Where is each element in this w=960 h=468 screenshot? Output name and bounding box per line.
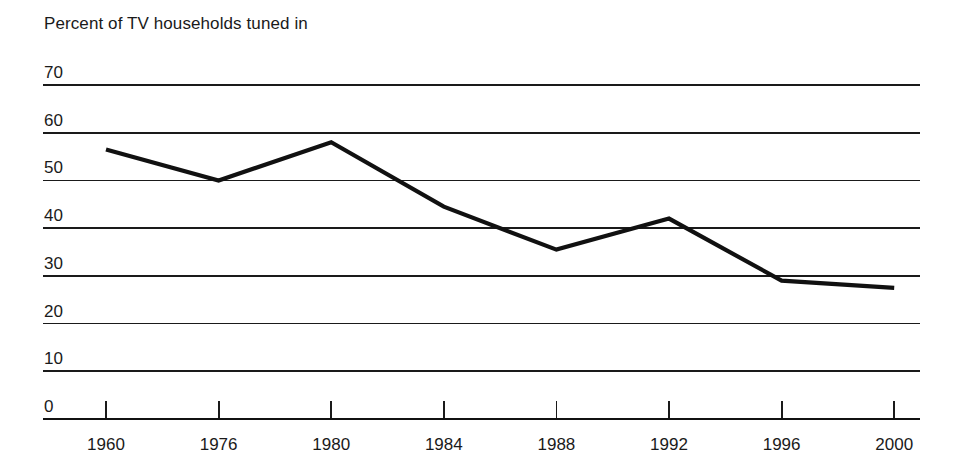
x-axis-label-1984: 1984 [425,435,463,455]
x-axis-label-1976: 1976 [200,435,238,455]
y-axis-label-30: 30 [44,254,63,274]
x-axis-tick-marks [106,401,894,419]
y-axis-label-0: 0 [44,397,53,417]
y-axis-label-20: 20 [44,302,63,322]
gridlines-group [43,85,920,371]
y-axis-label-50: 50 [44,158,63,178]
x-axis-label-1980: 1980 [312,435,350,455]
y-axis-label-70: 70 [44,63,63,83]
y-axis-label-60: 60 [44,111,63,131]
x-axis-label-1992: 1992 [650,435,688,455]
chart-page: Percent of TV households tuned in 706050… [0,0,960,468]
x-axis-label-1988: 1988 [537,435,575,455]
chart-plot-area [0,0,960,468]
x-axis-label-1960: 1960 [87,435,125,455]
x-axis-label-1996: 1996 [763,435,801,455]
x-axis-label-2000: 2000 [875,435,913,455]
y-axis-label-40: 40 [44,206,63,226]
data-series-line [106,142,894,288]
y-axis-label-10: 10 [44,349,63,369]
